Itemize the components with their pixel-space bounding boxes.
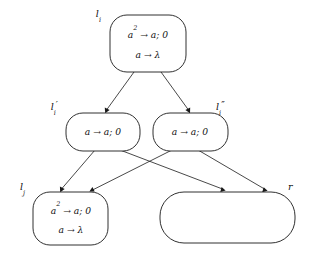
edge-li-double-prime-to-lj [89, 150, 172, 192]
node-li-double-prime[interactable]: a → a; 0 li″ [153, 98, 228, 151]
edge-li-to-li-prime [105, 72, 134, 113]
node-li-prime[interactable]: a → a; 0 li′ [51, 98, 140, 151]
node-r-label: r [288, 181, 294, 192]
arrowhead-icon [220, 187, 225, 192]
arrowhead-icon [60, 187, 65, 193]
node-lj[interactable]: a2 → a; 0 a → λ lj [20, 181, 108, 246]
node-li-double-prime-rule-1: a → a; 0 [172, 126, 209, 137]
node-li[interactable]: a2 → a; 0 a → λ li [96, 8, 186, 73]
diagram-canvas: a2 → a; 0 a → λ li a → a; 0 li′ a → a; 0… [0, 0, 309, 257]
node-lj-label: lj [20, 181, 25, 197]
node-li-shape[interactable] [110, 15, 186, 72]
node-li-rule-2: a → λ [136, 49, 161, 60]
edge-li-to-li-double-prime [161, 72, 190, 113]
node-li-prime-rule-1: a → a; 0 [85, 126, 122, 137]
edge-li-prime-to-lj [60, 150, 95, 192]
node-li-prime-label: li′ [51, 98, 58, 117]
edge-li-double-prime-to-r [198, 150, 268, 192]
node-r-shape[interactable] [160, 192, 295, 243]
node-lj-shape[interactable] [33, 192, 108, 245]
node-r[interactable]: r [160, 181, 295, 244]
node-lj-rule-2: a → λ [59, 224, 84, 235]
edge-li-prime-to-r [120, 150, 226, 192]
node-li-label: li [96, 8, 101, 24]
